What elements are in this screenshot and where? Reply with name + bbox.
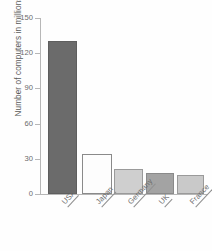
- bars-layer: [0, 0, 212, 251]
- bar-usa: [48, 41, 77, 194]
- bar-chart: Number of computers in millions 15012090…: [0, 0, 212, 251]
